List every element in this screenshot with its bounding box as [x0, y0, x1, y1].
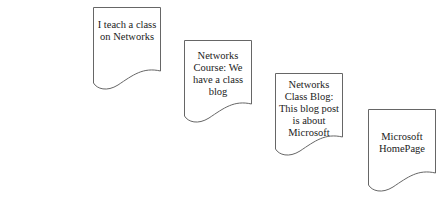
document-label: Networks Class Blog: This blog post is a… — [277, 79, 341, 139]
document-shape-1: I teach a class on Networks — [93, 7, 161, 93]
document-shape-2: Networks Course: We have a class blog — [184, 40, 252, 126]
document-label: Networks Course: We have a class blog — [186, 50, 250, 98]
document-label: Microsoft HomePage — [370, 131, 434, 155]
document-shape-4: Microsoft HomePage — [368, 109, 436, 195]
document-shape-3: Networks Class Blog: This blog post is a… — [275, 73, 343, 159]
document-label: I teach a class on Networks — [95, 19, 159, 43]
